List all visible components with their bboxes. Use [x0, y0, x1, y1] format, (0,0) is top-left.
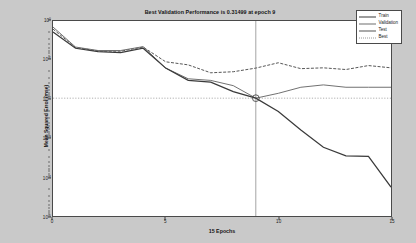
y-tick-minor — [48, 134, 50, 135]
y-tick-minor — [48, 150, 50, 151]
figure-canvas: Best Validation Performance is 0.31499 a… — [14, 6, 406, 238]
chart-svg — [53, 21, 391, 216]
y-tick-minor — [48, 83, 50, 84]
legend-swatch-icon — [359, 35, 376, 41]
y-tick-minor — [48, 171, 50, 172]
legend-swatch-icon — [359, 14, 376, 20]
y-tick-minor — [48, 165, 50, 166]
y-tick-minor — [48, 86, 50, 87]
y-tick-minor — [48, 208, 50, 209]
y-tick-minor — [48, 47, 50, 48]
x-axis-label: 15 Epochs — [52, 228, 392, 234]
series-line-train — [53, 32, 391, 187]
y-tick-minor — [48, 189, 50, 190]
y-tick-minor — [48, 31, 50, 32]
x-tick-label: 10 — [276, 219, 281, 224]
y-tick-minor — [48, 210, 50, 211]
y-tick-minor — [48, 110, 50, 111]
y-tick-minor — [48, 43, 50, 44]
legend-item-test[interactable]: Test — [359, 27, 398, 34]
y-tick-mark — [48, 138, 51, 139]
legend-item-label: Test — [379, 28, 387, 33]
y-tick-mark — [48, 59, 51, 60]
legend-item-label: Best — [379, 35, 388, 40]
data-series-group — [53, 27, 391, 187]
y-tick-minor — [48, 38, 50, 39]
y-tick-minor — [48, 201, 50, 202]
y-tick-mark — [48, 20, 51, 21]
y-tick-minor — [48, 173, 50, 174]
legend-swatch-icon — [359, 28, 376, 34]
y-tick-minor — [48, 168, 50, 169]
y-tick-minor — [48, 55, 50, 56]
legend-item-label: Train — [379, 14, 389, 19]
y-tick-minor — [48, 205, 50, 206]
y-tick-minor — [48, 117, 50, 118]
y-tick-minor — [48, 53, 50, 54]
legend-item-train[interactable]: Train — [359, 13, 398, 20]
y-tick-minor — [48, 156, 50, 157]
y-tick-minor — [48, 213, 50, 214]
y-tick-minor — [48, 71, 50, 72]
y-tick-minor — [48, 126, 50, 127]
y-tick-minor — [48, 90, 50, 91]
y-tick-mark — [48, 98, 51, 99]
chart-legend[interactable]: TrainValidationTestBest — [356, 10, 402, 44]
plot-area — [52, 20, 392, 217]
chart-title: Best Validation Performance is 0.31499 a… — [14, 9, 406, 15]
legend-item-validation[interactable]: Validation — [359, 20, 398, 27]
y-tick-minor — [48, 132, 50, 133]
y-tick-mark — [48, 177, 51, 178]
y-tick-minor — [48, 92, 50, 93]
legend-item-label: Validation — [379, 21, 398, 26]
legend-swatch-icon — [359, 21, 376, 27]
legend-item-best[interactable]: Best — [359, 34, 398, 41]
x-tick-label: 0 — [51, 219, 54, 224]
y-tick-minor — [48, 94, 50, 95]
y-tick-minor — [48, 196, 50, 197]
y-tick-minor — [48, 50, 50, 51]
y-tick-minor — [48, 161, 50, 162]
y-tick-minor — [48, 129, 50, 130]
y-tick-minor — [48, 78, 50, 79]
x-tick-label: 15 — [389, 219, 394, 224]
figure-window: Best Validation Performance is 0.31499 a… — [0, 0, 416, 243]
x-tick-label: 5 — [164, 219, 167, 224]
y-tick-minor — [48, 122, 50, 123]
